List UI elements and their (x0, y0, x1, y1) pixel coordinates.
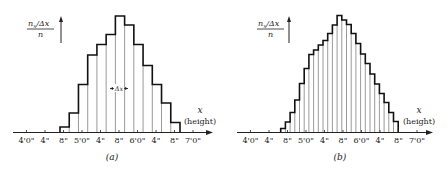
y-label-denominator-a: n (38, 30, 43, 39)
x-tick-label: 8" (283, 136, 292, 145)
y-arrow-icon (59, 16, 63, 22)
y-label-numerator-b: nx/Δx (258, 19, 280, 29)
x-tick-label: 4'0" (18, 136, 34, 145)
delta-x-label: Δx (114, 85, 124, 93)
histogram-outline (281, 16, 399, 133)
x-axis-arrow-icon (426, 130, 433, 135)
x-tick-label: 8" (339, 136, 348, 145)
x-tick-label: 6'0" (353, 136, 369, 145)
x-tick-label: 8" (170, 136, 179, 145)
x-tick-label: 7'0" (185, 136, 201, 145)
x-axis-label-b: (height) (403, 117, 435, 126)
x-tick-label: 4" (41, 136, 50, 145)
x-tick-label: 4" (96, 136, 105, 145)
histogram-figure: 4'0"4"8"5'0"4"8"6'0"4"8"7'0" nx/Δx n Δx … (0, 0, 448, 172)
x-variable-label-b: x (416, 105, 421, 115)
x-tick-label: 4" (265, 136, 274, 145)
histogram-bars-b (281, 16, 399, 133)
delta-left-arrow-icon (110, 87, 113, 90)
histogram-panel-b: 4'0"4"8"5'0"4"8"6'0"4"8"7'0" nx/Δx n x (… (237, 16, 435, 163)
histogram-panel-a: 4'0"4"8"5'0"4"8"6'0"4"8"7'0" nx/Δx n Δx … (13, 16, 216, 162)
x-tick-label: 4" (320, 136, 329, 145)
x-tick-label: 5'0" (74, 136, 90, 145)
x-axis-label-a: (height) (184, 117, 216, 126)
delta-right-arrow-icon (125, 87, 128, 90)
x-tick-label: 8" (115, 136, 124, 145)
x-tick-label: 4" (376, 136, 385, 145)
panel-caption-a: (a) (106, 152, 119, 162)
y-label-numerator-a: nx/Δx (28, 19, 50, 29)
x-tick-label: 6'0" (129, 136, 145, 145)
histogram-bars-a (60, 16, 180, 133)
x-tick-label: 8" (394, 136, 403, 145)
x-variable-label-a: x (197, 105, 202, 115)
panel-caption-b: (b) (334, 152, 347, 162)
x-tick-label: 8" (59, 136, 68, 145)
x-tick-label: 5'0" (298, 136, 314, 145)
y-arrow-icon (287, 16, 291, 22)
x-tick-label: 7'0" (409, 136, 425, 145)
y-label-denominator-b: n (268, 30, 273, 39)
x-tick-label: 4'0" (242, 136, 258, 145)
histogram-outline (60, 16, 180, 133)
x-axis-arrow-icon (206, 130, 213, 135)
x-tick-label: 4" (152, 136, 161, 145)
